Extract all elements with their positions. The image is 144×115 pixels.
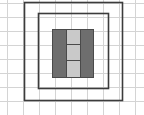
diagram-canvas <box>0 0 144 115</box>
background-grid <box>0 0 144 115</box>
